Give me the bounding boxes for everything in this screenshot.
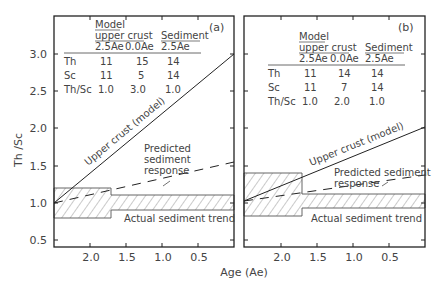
svg-text:15: 15 xyxy=(136,56,149,67)
svg-text:14: 14 xyxy=(371,68,384,79)
svg-text:7: 7 xyxy=(341,82,347,93)
svg-text:11: 11 xyxy=(304,82,317,93)
panel-label-b: (b) xyxy=(398,21,414,34)
figure: Th /Sc 3.0 2.5 2.0 1.5 1.0 0.5 xyxy=(0,0,438,289)
svg-text:1.0: 1.0 xyxy=(165,84,181,95)
svg-text:Sc: Sc xyxy=(268,82,280,93)
x-tick-labels-a: 2.0 1.5 1.0 0.5 xyxy=(82,251,208,264)
svg-text:1.0: 1.0 xyxy=(345,251,363,264)
svg-text:3.0: 3.0 xyxy=(130,84,146,95)
svg-text:Sediment: Sediment xyxy=(161,30,209,41)
svg-text:Sediment: Sediment xyxy=(365,42,413,53)
y-tick-labels: 3.0 2.5 2.0 1.5 1.0 0.5 xyxy=(30,48,48,247)
svg-text:Model: Model xyxy=(299,31,329,42)
svg-text:1.5: 1.5 xyxy=(30,160,48,173)
svg-text:2.5: 2.5 xyxy=(30,85,48,98)
svg-text:14: 14 xyxy=(338,68,351,79)
upper-crust-label-b: Upper crust (model) xyxy=(308,120,406,168)
svg-text:14: 14 xyxy=(371,82,384,93)
svg-text:response: response xyxy=(334,178,379,189)
x-tick-labels-b: 2.0 1.5 1.0 0.5 xyxy=(273,251,399,264)
panel-label-a: (a) xyxy=(209,21,224,34)
svg-text:2.0: 2.0 xyxy=(82,251,100,264)
svg-text:1.0: 1.0 xyxy=(302,96,318,107)
svg-text:Model: Model xyxy=(95,19,125,30)
svg-text:0.5: 0.5 xyxy=(381,251,399,264)
svg-text:2.5Ae: 2.5Ae xyxy=(299,53,328,64)
svg-text:2.0: 2.0 xyxy=(30,122,48,135)
svg-text:Sc: Sc xyxy=(64,70,76,81)
svg-text:response: response xyxy=(144,165,189,176)
svg-text:11: 11 xyxy=(100,70,113,81)
svg-text:14: 14 xyxy=(167,56,180,67)
data-table-a: Model upper crust Sediment 2.5Ae 0.0Ae 2… xyxy=(63,19,209,95)
svg-text:2.5Ae: 2.5Ae xyxy=(365,53,394,64)
svg-text:Th/Sc: Th/Sc xyxy=(267,96,296,107)
svg-text:2.0: 2.0 xyxy=(334,96,350,107)
svg-text:5: 5 xyxy=(138,70,144,81)
svg-text:2.5Ae: 2.5Ae xyxy=(161,41,190,52)
x-axis-label: Age (Ae) xyxy=(220,266,267,279)
svg-text:0.0Ae: 0.0Ae xyxy=(125,41,154,52)
svg-text:0.5: 0.5 xyxy=(30,234,48,247)
svg-text:14: 14 xyxy=(167,70,180,81)
predicted-label-a: Predicted sediment response xyxy=(144,143,191,176)
y-axis-label: Th /Sc xyxy=(12,133,25,168)
svg-text:0.0Ae: 0.0Ae xyxy=(330,53,359,64)
data-table-b: Model upper crust Sediment 2.5Ae 0.0Ae 2… xyxy=(267,31,413,107)
svg-text:Th: Th xyxy=(267,68,280,79)
svg-text:11: 11 xyxy=(100,56,113,67)
svg-text:2.5Ae: 2.5Ae xyxy=(95,41,124,52)
svg-text:1.0: 1.0 xyxy=(154,251,172,264)
svg-text:Predicted sediment: Predicted sediment xyxy=(334,167,431,178)
svg-text:2.0: 2.0 xyxy=(273,251,291,264)
svg-text:3.0: 3.0 xyxy=(30,48,48,61)
svg-text:11: 11 xyxy=(304,68,317,79)
panel-b: 2.0 1.5 1.0 0.5 (b) Model upper crust Se… xyxy=(244,16,431,264)
upper-crust-line xyxy=(244,127,425,201)
svg-text:1.5: 1.5 xyxy=(118,251,136,264)
svg-text:Predicted: Predicted xyxy=(144,143,191,154)
svg-text:0.5: 0.5 xyxy=(190,251,208,264)
svg-text:upper crust: upper crust xyxy=(299,42,357,53)
svg-text:sediment: sediment xyxy=(144,154,191,165)
svg-text:1.0: 1.0 xyxy=(369,96,385,107)
panel-a: 2.0 1.5 1.0 0.5 (a) Model upper crust Se… xyxy=(54,16,235,264)
svg-text:1.5: 1.5 xyxy=(309,251,327,264)
svg-text:1.0: 1.0 xyxy=(98,84,114,95)
svg-text:Th/Sc: Th/Sc xyxy=(63,84,92,95)
actual-label-a: Actual sediment trend xyxy=(124,213,235,224)
svg-text:upper crust: upper crust xyxy=(95,30,153,41)
svg-text:Th: Th xyxy=(63,56,76,67)
actual-label-b: Actual sediment trend xyxy=(311,213,422,224)
svg-text:1.0: 1.0 xyxy=(30,197,48,210)
